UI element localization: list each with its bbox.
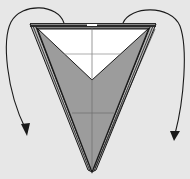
top-edge [30, 23, 156, 27]
origami-diagram [0, 0, 190, 179]
diagram-svg [0, 0, 190, 179]
